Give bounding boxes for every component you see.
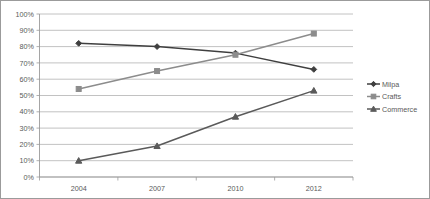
data-point-marker (311, 67, 317, 73)
legend-item-milpa[interactable]: Milpa (367, 80, 399, 89)
y-axis-tick-label: 20% (20, 140, 35, 149)
y-axis-tick-label: 60% (20, 75, 35, 84)
y-axis-tick-label: 40% (20, 107, 35, 116)
data-point-marker (76, 86, 81, 91)
data-point-marker (155, 69, 160, 74)
data-point-marker (76, 40, 82, 46)
legend-group: MilpaCraftsCommerce (367, 80, 417, 114)
legend-item-crafts[interactable]: Crafts (367, 92, 402, 101)
series-line (79, 43, 314, 69)
x-axis-group (40, 177, 354, 181)
data-point-marker (154, 44, 160, 50)
legend-item-label: Crafts (382, 92, 402, 101)
gridlines-group (40, 14, 354, 177)
series-line (79, 91, 314, 161)
y-tick-labels-group: 0%10%20%30%40%50%60%70%80%90%100% (16, 10, 35, 182)
data-series-milpa (76, 40, 317, 72)
data-point-marker (311, 31, 316, 36)
legend-item-label: Milpa (382, 80, 399, 89)
data-point-marker (311, 87, 317, 93)
x-axis-tick-label: 2010 (227, 184, 243, 193)
y-axis-tick-label: 30% (20, 124, 35, 133)
plot-area: 0%10%20%30%40%50%60%70%80%90%100% 200420… (1, 1, 430, 199)
x-axis-tick-label: 2012 (306, 184, 322, 193)
series-line (79, 34, 314, 89)
diamond-marker-icon (371, 81, 376, 86)
x-tick-labels-group: 2004200720102012 (71, 184, 322, 193)
series-group (76, 31, 317, 163)
line-chart-canvas: 0%10%20%30%40%50%60%70%80%90%100% 200420… (1, 1, 430, 199)
x-axis-tick-label: 2007 (149, 184, 165, 193)
y-axis-tick-label: 50% (20, 91, 35, 100)
y-axis-tick-label: 90% (20, 26, 35, 35)
y-axis-tick-label: 80% (20, 42, 35, 51)
square-marker-icon (371, 94, 376, 99)
x-axis-tick-label: 2004 (71, 184, 87, 193)
legend-item-label: Commerce (382, 105, 417, 114)
legend-item-commerce[interactable]: Commerce (367, 105, 417, 114)
data-series-crafts (76, 31, 316, 91)
y-axis-tick-label: 0% (24, 173, 35, 182)
y-axis-tick-label: 70% (20, 59, 35, 68)
y-axis-group (37, 14, 40, 177)
data-point-marker (233, 52, 238, 57)
chart-container: 0%10%20%30%40%50%60%70%80%90%100% 200420… (0, 0, 430, 199)
data-series-commerce (76, 87, 317, 163)
y-axis-tick-label: 10% (20, 156, 35, 165)
y-axis-tick-label: 100% (16, 10, 35, 19)
